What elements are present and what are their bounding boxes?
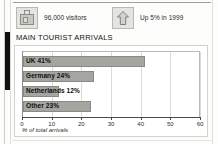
chart-bar-label: UK 41% xyxy=(26,55,51,66)
up-arrow-icon xyxy=(112,7,134,29)
chart-x-tick xyxy=(111,117,112,120)
suitcase-icon xyxy=(16,7,38,29)
chart-x-tick xyxy=(200,117,201,120)
chart-gridline xyxy=(200,52,201,117)
chart-x-tick-label: 30 xyxy=(108,121,115,127)
chart-x-tick-label: 60 xyxy=(197,121,204,127)
chart-x-tick xyxy=(52,117,53,120)
chart-x-axis-label: % of total arrivals xyxy=(22,127,68,133)
chart-x-tick-label: 20 xyxy=(78,121,85,127)
frame-line-right xyxy=(212,0,213,144)
chart-bar-label: Netherlands 12% xyxy=(26,85,80,96)
chart-gridline xyxy=(170,52,171,117)
chart-x-tick xyxy=(141,117,142,120)
chart-panel: 0102030405060 % of total arrivals UK 41%… xyxy=(14,45,208,137)
chart-bar-label: Other 23% xyxy=(26,100,59,111)
stat-visitors-label: 96,000 visitors xyxy=(44,14,87,21)
chart-x-axis: 0102030405060 xyxy=(22,117,200,118)
stat-growth-label: Up 5% in 1999 xyxy=(140,14,183,21)
chart-x-tick-label: 40 xyxy=(137,121,144,127)
page-title: MAIN TOURIST ARRIVALS xyxy=(16,33,113,42)
stats-row: 96,000 visitors Up 5% in 1999 xyxy=(13,6,211,29)
chart-x-tick xyxy=(170,117,171,120)
chart-bar-label: Germany 24% xyxy=(26,70,70,81)
top-divider-rule xyxy=(13,2,211,3)
frame-line-left-inner xyxy=(10,0,11,144)
chart-x-tick xyxy=(81,117,82,120)
stat-visitors: 96,000 visitors xyxy=(16,6,87,29)
stat-growth: Up 5% in 1999 xyxy=(112,6,183,29)
chart-x-tick xyxy=(22,117,23,120)
accent-bar xyxy=(5,32,10,90)
chart-x-tick-label: 50 xyxy=(167,121,174,127)
bottom-divider-rule xyxy=(13,140,211,141)
infographic-panel: 96,000 visitors Up 5% in 1999 MAIN TOURI… xyxy=(0,0,218,144)
